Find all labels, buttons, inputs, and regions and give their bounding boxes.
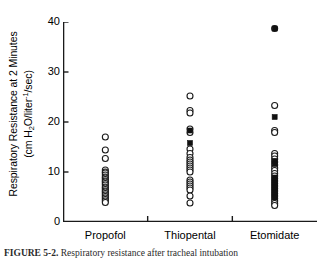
data-point-open-circle [187,110,193,116]
data-point-open-circle [272,130,278,136]
x-axis-category-label-thiopental: Thiopental [148,228,233,244]
data-point-filled-square [272,115,277,120]
y-axis-tick-label: 0 [40,216,60,227]
marker-group-thiopental [187,93,193,206]
data-point-open-circle [187,200,193,206]
y-axis-title-units-suffix: /sec) [21,70,33,92]
y-axis-title-line1: Respiratory Resistance at 2 Minutes [7,31,20,196]
figure-caption: FIGURE 5-2. Respiratory resistance after… [4,247,322,261]
y-axis-tick-label: 10 [40,166,60,177]
y-axis-title-units-prefix: (cm H [21,130,33,158]
y-axis-tick-label: 40 [40,16,60,27]
x-axis-category-labels: PropofolThiopentalEtomidate [63,228,317,244]
y-axis-title-line2: (cm H2O/liter-1/sec) [19,31,38,196]
plot-area [63,22,317,222]
figure-caption-text: Respiratory resistance after tracheal in… [61,248,238,258]
x-axis-category-label-propofol: Propofol [63,228,148,244]
figure-container: Respiratory Resistance at 2 Minutes (cm … [0,0,326,261]
data-point-open-circle [187,169,193,175]
data-point-filled-square [272,26,277,31]
data-point-filled-square [272,162,277,167]
data-point-filled-square [188,141,193,146]
y-axis-tick-label: 30 [40,66,60,77]
scatter-plot-svg [63,22,317,222]
data-point-open-circle [272,103,278,109]
marker-group-propofol [102,134,108,206]
y-axis-title-subscript: 2 [26,126,35,130]
data-point-open-circle [102,147,108,153]
data-point-open-circle [272,203,278,209]
y-axis-title-superscript: -1 [20,92,29,98]
data-point-open-circle [102,134,108,140]
data-point-open-circle [102,200,108,206]
data-point-filled-square [272,195,277,200]
data-point-open-circle [187,187,193,193]
data-point-open-circle [102,156,108,162]
y-axis-tick-labels: 010203040 [38,0,60,261]
y-axis-title-units-mid: O/liter [21,99,33,126]
figure-caption-label: FIGURE 5-2. [4,248,58,258]
data-point-filled-square [188,128,193,133]
data-point-open-circle [187,193,193,199]
data-point-open-circle [187,93,193,99]
x-axis-category-label-etomidate: Etomidate [232,228,317,244]
marker-group-etomidate [272,26,278,209]
y-axis-tick-label: 20 [40,116,60,127]
